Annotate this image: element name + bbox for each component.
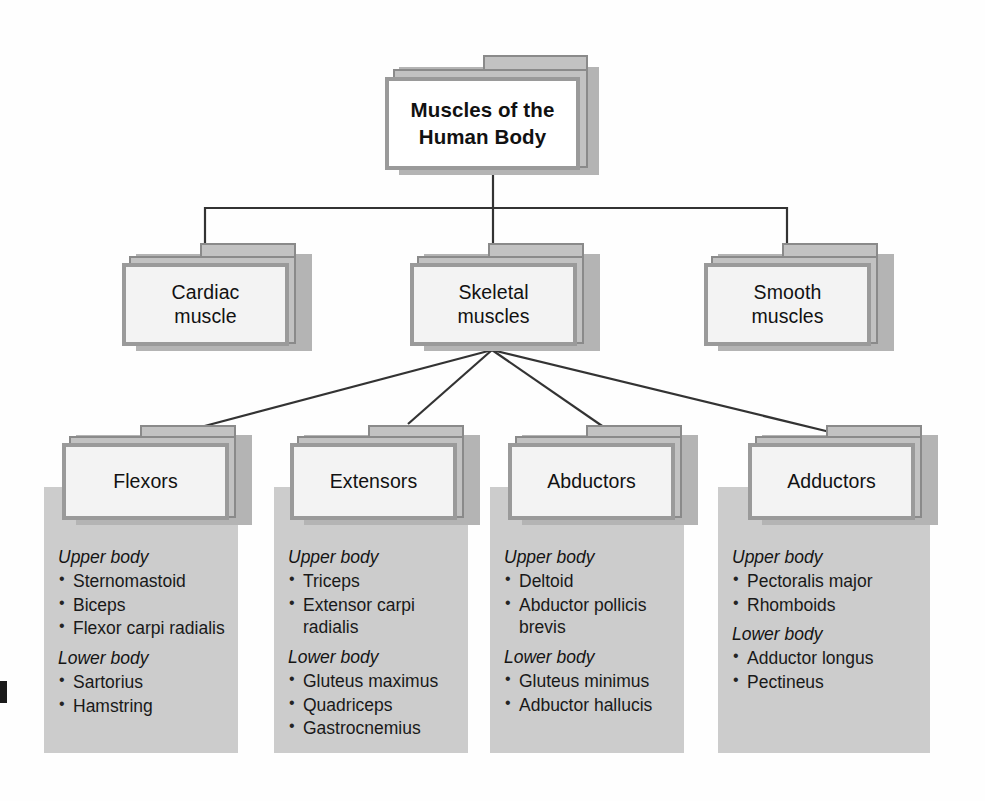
folder-label-line1: Muscles of the (411, 98, 555, 121)
muscle-list: •Triceps•Extensor carpi radialis (288, 570, 472, 639)
folder-front: Cardiac muscle (122, 263, 289, 346)
bullet-icon: • (505, 693, 511, 714)
folder-front: Skeletal muscles (410, 263, 577, 346)
folder-cardiac-muscle[interactable]: Cardiac muscle (122, 243, 312, 351)
muscle-list: •Sartorius•Hamstring (58, 671, 236, 718)
list-item: •Gluteus minimus (504, 670, 686, 693)
list-item: •Pectineus (732, 671, 928, 694)
list-item: •Adbuctor hallucis (504, 694, 686, 717)
list-item: •Triceps (288, 570, 472, 593)
folder-label-line1: Smooth (754, 281, 822, 303)
page-edge-artifact (0, 681, 7, 703)
bullet-icon: • (59, 569, 65, 590)
folder-label: Cardiac muscle (166, 281, 246, 329)
group-heading: Lower body (288, 646, 472, 669)
folder-label: Muscles of the Human Body (405, 97, 561, 150)
bullet-icon: • (289, 593, 295, 614)
muscle-list: •Gluteus minimus•Adbuctor hallucis (504, 670, 686, 717)
folder-label-line1: Skeletal (458, 281, 528, 303)
folder-root[interactable]: Muscles of the Human Body (385, 55, 600, 175)
group-heading: Lower body (732, 623, 928, 646)
folder-abductors[interactable]: Abductors (508, 425, 698, 525)
list-item: •Adductor longus (732, 647, 928, 670)
bullet-icon: • (59, 616, 65, 637)
list-item-label: Rhomboids (747, 595, 836, 615)
list-item-label: Gastrocnemius (303, 718, 421, 738)
list-abductors: Upper body•Deltoid•Abductor pollicis bre… (504, 546, 686, 717)
bullet-icon: • (505, 593, 511, 614)
folder-label-line2: muscles (751, 305, 823, 327)
bullet-icon: • (59, 670, 65, 691)
list-item-label: Pectoralis major (747, 571, 872, 591)
muscle-list: •Pectoralis major•Rhomboids (732, 570, 928, 617)
folder-skeletal-muscles[interactable]: Skeletal muscles (410, 243, 600, 351)
list-item: •Sartorius (58, 671, 236, 694)
group-heading: Upper body (288, 546, 472, 569)
bullet-icon: • (289, 569, 295, 590)
folder-label: Smooth muscles (745, 281, 829, 329)
list-item: •Gluteus maximus (288, 670, 472, 693)
bullet-icon: • (733, 670, 739, 691)
list-item-label: Sternomastoid (73, 571, 186, 591)
list-item-label: Adductor longus (747, 648, 873, 668)
list-item: •Pectoralis major (732, 570, 928, 593)
list-item-label: Quadriceps (303, 695, 393, 715)
folder-label: Skeletal muscles (451, 281, 535, 329)
list-item-label: Flexor carpi radialis (73, 618, 225, 638)
list-item-label: Sartorius (73, 672, 143, 692)
list-item: •Biceps (58, 594, 236, 617)
list-item: •Extensor carpi radialis (288, 594, 472, 640)
muscle-list: •Gluteus maximus•Quadriceps•Gastrocnemiu… (288, 670, 472, 740)
folder-label: Abductors (541, 470, 642, 494)
list-item: •Sternomastoid (58, 570, 236, 593)
folder-front: Adductors (748, 443, 915, 520)
list-item-label: Hamstring (73, 696, 153, 716)
bullet-icon: • (59, 694, 65, 715)
folder-flexors[interactable]: Flexors (62, 425, 252, 525)
folder-front: Muscles of the Human Body (385, 77, 580, 170)
group-heading: Lower body (58, 647, 236, 670)
list-item-label: Adbuctor hallucis (519, 695, 652, 715)
folder-label-line2: Human Body (419, 125, 546, 148)
folder-extensors[interactable]: Extensors (290, 425, 480, 525)
list-item: •Hamstring (58, 695, 236, 718)
list-extensors: Upper body•Triceps•Extensor carpi radial… (288, 546, 472, 741)
list-item: •Deltoid (504, 570, 686, 593)
list-item: •Rhomboids (732, 594, 928, 617)
folder-front: Abductors (508, 443, 675, 520)
bullet-icon: • (733, 569, 739, 590)
folder-label: Adductors (781, 470, 882, 494)
muscle-list: •Adductor longus•Pectineus (732, 647, 928, 694)
folder-front: Flexors (62, 443, 229, 520)
bullet-icon: • (733, 646, 739, 667)
group-heading: Upper body (58, 546, 236, 569)
list-item-label: Deltoid (519, 571, 573, 591)
list-item-label: Gluteus minimus (519, 671, 649, 691)
group-heading: Upper body (504, 546, 686, 569)
folder-front: Smooth muscles (704, 263, 871, 346)
group-heading: Upper body (732, 546, 928, 569)
list-item: •Abductor pollicis brevis (504, 594, 686, 640)
bullet-icon: • (289, 669, 295, 690)
folder-label: Flexors (107, 470, 184, 494)
folder-smooth-muscles[interactable]: Smooth muscles (704, 243, 894, 351)
muscle-list: •Sternomastoid•Biceps•Flexor carpi radia… (58, 570, 236, 640)
list-item-label: Extensor carpi radialis (303, 595, 415, 638)
folder-adductors[interactable]: Adductors (748, 425, 938, 525)
list-item-label: Gluteus maximus (303, 671, 438, 691)
list-item: •Flexor carpi radialis (58, 617, 236, 640)
folder-label-line2: muscles (457, 305, 529, 327)
folder-front: Extensors (290, 443, 457, 520)
bullet-icon: • (59, 593, 65, 614)
bullet-icon: • (505, 669, 511, 690)
list-item: •Gastrocnemius (288, 717, 472, 740)
list-item-label: Triceps (303, 571, 360, 591)
bullet-icon: • (289, 716, 295, 737)
folder-label-line2: muscle (174, 305, 236, 327)
list-adductors: Upper body•Pectoralis major•RhomboidsLow… (732, 546, 928, 695)
list-item-label: Abductor pollicis brevis (519, 595, 646, 638)
bullet-icon: • (289, 693, 295, 714)
bullet-icon: • (733, 593, 739, 614)
list-flexors: Upper body•Sternomastoid•Biceps•Flexor c… (58, 546, 236, 718)
muscle-list: •Deltoid•Abductor pollicis brevis (504, 570, 686, 639)
